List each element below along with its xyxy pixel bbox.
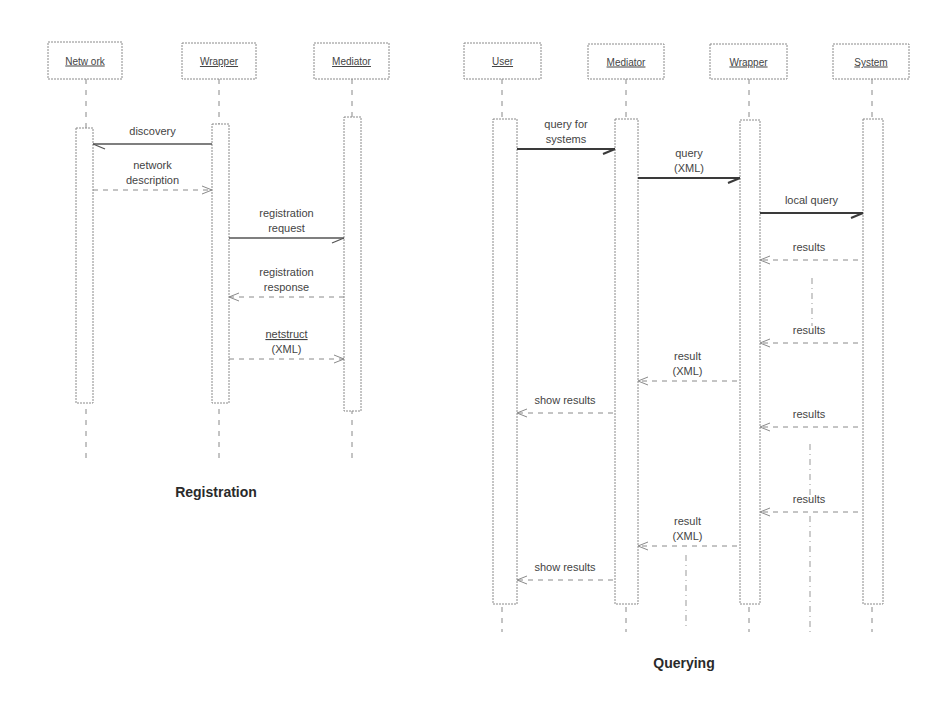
message-label: description	[126, 174, 179, 186]
message-results: results	[760, 241, 858, 264]
half-arrowhead-icon	[332, 238, 344, 243]
message-label: registration	[259, 266, 313, 278]
participant-label: Netw ork	[65, 56, 105, 67]
activation-bar	[344, 117, 361, 411]
participant-network: Netw ork	[48, 42, 122, 403]
participant-label: User	[492, 56, 514, 67]
message-show-results: show results	[517, 394, 613, 417]
activation-bar	[212, 124, 229, 403]
message-result-xml: result(XML)	[638, 350, 737, 385]
activation-bar	[615, 119, 638, 604]
activation-bar	[493, 119, 517, 604]
participant-label: Wrapper	[729, 57, 768, 68]
message-label: (XML)	[272, 343, 302, 355]
message-label: (XML)	[674, 162, 704, 174]
message-netstruct-xml: netstruct(XML)	[229, 328, 344, 363]
message-label: (XML)	[673, 365, 703, 377]
querying-diagram: UserMediatorWrapperSystemquery forsystem…	[464, 43, 909, 671]
message-label: network	[133, 159, 172, 171]
message-results: results	[760, 493, 858, 516]
registration-diagram: Netw orkWrapperMediatordiscoverynetworkd…	[48, 42, 389, 500]
message-label: registration	[259, 207, 313, 219]
participant-mediator: Mediator	[588, 44, 664, 604]
participant-wrapper: Wrapper	[710, 44, 787, 604]
message-result-xml: result(XML)	[638, 515, 737, 550]
querying-caption: Querying	[653, 655, 714, 671]
message-label: result	[674, 350, 701, 362]
message-registration-request: registrationrequest	[229, 207, 344, 243]
message-registration-response: registrationresponse	[229, 266, 344, 301]
message-label: result	[674, 515, 701, 527]
message-label: response	[264, 281, 309, 293]
participant-label: Wrapper	[200, 56, 239, 67]
message-local-query: local query	[760, 194, 863, 218]
activation-bar	[740, 120, 760, 604]
message-results: results	[760, 408, 858, 431]
activation-bar	[76, 128, 93, 403]
message-label: local query	[785, 194, 839, 206]
message-label: show results	[534, 394, 596, 406]
message-label: request	[268, 222, 305, 234]
message-label: (XML)	[673, 530, 703, 542]
participant-wrapper: Wrapper	[182, 43, 256, 403]
activation-bar	[863, 119, 883, 604]
participant-label: System	[854, 57, 887, 68]
half-arrowhead-icon	[93, 144, 105, 149]
message-results: results	[760, 324, 858, 347]
message-discovery: discovery	[93, 125, 212, 149]
participant-label: Mediator	[607, 57, 647, 68]
participant-label: Mediator	[332, 56, 372, 67]
message-query-xml: query(XML)	[638, 147, 740, 183]
message-show-results: show results	[517, 561, 613, 584]
registration-caption: Registration	[175, 484, 257, 500]
message-label: results	[793, 324, 826, 336]
message-label: results	[793, 493, 826, 505]
message-label: query for	[544, 118, 588, 130]
message-label: results	[793, 241, 826, 253]
message-network-description: networkdescription	[93, 159, 212, 194]
participant-system: System	[833, 44, 909, 604]
message-query-for-systems: query forsystems	[517, 118, 615, 154]
message-label: systems	[546, 133, 587, 145]
message-label: query	[675, 147, 703, 159]
message-label: show results	[534, 561, 596, 573]
participant-user: User	[464, 43, 541, 604]
sequence-diagrams: Netw orkWrapperMediatordiscoverynetworkd…	[0, 0, 950, 705]
message-label: discovery	[129, 125, 176, 137]
message-label: results	[793, 408, 826, 420]
participant-mediator: Mediator	[314, 43, 389, 411]
message-label: netstruct	[265, 328, 307, 340]
